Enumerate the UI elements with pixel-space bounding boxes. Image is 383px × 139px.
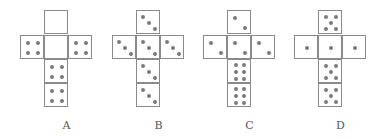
die-face-left: [203, 35, 227, 59]
pip: [26, 51, 30, 55]
pip: [26, 41, 30, 45]
die-face-center: [227, 35, 251, 59]
pip: [324, 76, 328, 80]
pip: [329, 21, 333, 25]
die-face-center: [136, 35, 160, 59]
net-label: B: [111, 119, 206, 132]
pip: [233, 16, 237, 20]
pip: [60, 89, 64, 93]
die-face-below2: [44, 83, 68, 107]
pip: [209, 41, 213, 45]
pip: [147, 70, 151, 74]
pip: [324, 27, 328, 31]
die-face-top: [318, 10, 342, 34]
pip: [234, 87, 238, 91]
pip: [36, 41, 40, 45]
pip: [324, 100, 328, 104]
pip: [324, 64, 328, 68]
die-face-below2: [227, 83, 251, 107]
pip: [171, 46, 175, 50]
pip: [84, 51, 88, 55]
pip: [267, 51, 271, 55]
die-face-below1: [318, 59, 342, 83]
pip: [165, 40, 169, 44]
pip: [257, 41, 261, 45]
pip: [141, 15, 145, 19]
die-face-below2: [136, 83, 160, 107]
die-face-right: [160, 35, 184, 59]
pip: [334, 88, 338, 92]
pip: [305, 46, 309, 50]
pip: [141, 88, 145, 92]
pip: [329, 70, 333, 74]
die-face-left: [294, 35, 318, 59]
pip: [74, 41, 78, 45]
pip: [74, 51, 78, 55]
pip: [50, 99, 54, 103]
pip: [60, 99, 64, 103]
pip: [147, 46, 151, 50]
die-face-left: [20, 35, 44, 59]
die-face-center: [44, 35, 68, 59]
net-label: A: [19, 119, 114, 132]
pip: [147, 94, 151, 98]
pip: [50, 89, 54, 93]
pip: [234, 77, 238, 81]
die-face-right: [251, 35, 275, 59]
pip: [242, 63, 246, 67]
die-face-center: [318, 35, 342, 59]
pip: [234, 63, 238, 67]
net-d: D: [293, 0, 383, 139]
die-face-top: [227, 10, 251, 34]
die-face-top: [136, 10, 160, 34]
pip: [50, 75, 54, 79]
pip: [334, 64, 338, 68]
pip: [50, 65, 54, 69]
die-face-below1: [136, 59, 160, 83]
die-face-below2: [318, 83, 342, 107]
pip: [243, 26, 247, 30]
pip: [324, 88, 328, 92]
pip: [117, 40, 121, 44]
pip: [233, 41, 237, 45]
pip: [242, 70, 246, 74]
pip: [219, 51, 223, 55]
net-c: C: [202, 0, 297, 139]
pip: [242, 101, 246, 105]
pip: [60, 75, 64, 79]
pip: [153, 27, 157, 31]
pip: [234, 70, 238, 74]
die-face-top: [44, 10, 68, 34]
net-a: A: [19, 0, 114, 139]
pip: [177, 52, 181, 56]
pip: [334, 100, 338, 104]
pip: [324, 15, 328, 19]
pip: [329, 46, 333, 50]
pip: [234, 94, 238, 98]
pip: [334, 15, 338, 19]
pip: [129, 52, 133, 56]
pip: [329, 94, 333, 98]
pip: [334, 27, 338, 31]
pip: [334, 76, 338, 80]
die-face-below1: [44, 59, 68, 83]
pip: [242, 87, 246, 91]
net-label: C: [202, 119, 297, 132]
pip: [153, 52, 157, 56]
die-face-right: [68, 35, 92, 59]
pip: [153, 100, 157, 104]
pip: [234, 101, 238, 105]
die-face-below1: [227, 59, 251, 83]
pip: [147, 21, 151, 25]
pip: [153, 76, 157, 80]
pip: [141, 40, 145, 44]
pip: [242, 94, 246, 98]
pip: [243, 51, 247, 55]
pip: [141, 64, 145, 68]
pip: [242, 77, 246, 81]
pip: [123, 46, 127, 50]
die-face-right: [342, 35, 366, 59]
pip: [353, 46, 357, 50]
pip: [60, 65, 64, 69]
pip: [84, 41, 88, 45]
